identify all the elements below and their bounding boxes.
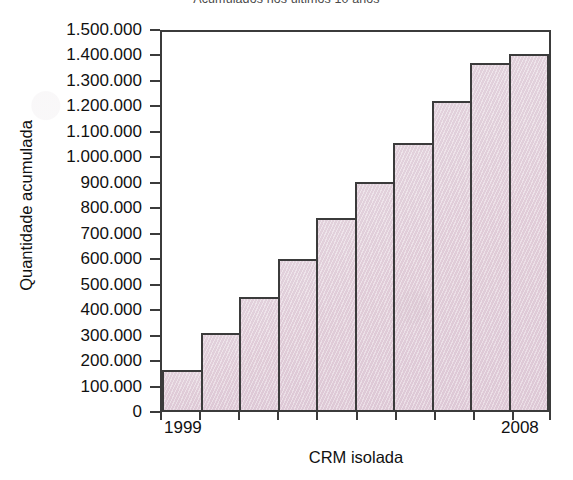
x-axis-tick-first	[160, 412, 162, 420]
bar-2003	[316, 218, 357, 410]
x-axis-tick	[512, 412, 514, 420]
y-axis-tick	[150, 54, 160, 56]
bar-series	[162, 32, 549, 410]
bar-2002	[278, 259, 319, 410]
y-axis-tick	[150, 156, 160, 158]
y-axis-tick	[150, 309, 160, 311]
x-axis-tick-last	[549, 412, 551, 420]
y-axis-tick-label: 1.300.000	[26, 72, 142, 89]
bar-2008	[509, 54, 550, 410]
bar-2006	[432, 101, 473, 410]
y-axis-tick-label: 1.000.000	[26, 148, 142, 165]
y-axis-title: Quantidade acumulada	[17, 86, 36, 326]
y-axis-tick-label: 500.000	[26, 276, 142, 293]
y-axis-tick	[150, 360, 160, 362]
y-axis-tick	[150, 258, 160, 260]
x-axis-tick	[238, 412, 240, 420]
y-axis-tick-label: 100.000	[26, 378, 142, 395]
y-axis-tick-label: 900.000	[26, 174, 142, 191]
y-axis-tick-label: 0	[26, 403, 142, 420]
y-axis-tick	[150, 411, 160, 413]
x-axis-tick	[434, 412, 436, 420]
y-axis-tick	[150, 335, 160, 337]
y-axis-tick-label: 1.100.000	[26, 123, 142, 140]
y-axis-tick-label: 600.000	[26, 250, 142, 267]
x-axis-tick	[395, 412, 397, 420]
bar-2004	[355, 182, 396, 410]
x-axis-tick-label-1999: 1999	[164, 418, 202, 438]
chart-title: Acumulados nos últimos 10 anos	[0, 0, 573, 4]
y-axis-tick-label: 1.200.000	[26, 97, 142, 114]
x-axis-tick	[199, 412, 201, 420]
y-axis-tick	[150, 386, 160, 388]
plot-area	[160, 30, 551, 412]
y-axis-tick	[150, 80, 160, 82]
bar-2007	[470, 63, 511, 410]
y-axis-tick-label: 300.000	[26, 327, 142, 344]
bar-2005	[393, 143, 434, 410]
x-axis-tick	[356, 412, 358, 420]
y-axis-tick-label: 200.000	[26, 352, 142, 369]
x-axis-title: CRM isolada	[160, 448, 552, 467]
y-axis-tick	[150, 105, 160, 107]
bar-1999	[162, 370, 203, 410]
x-axis-tick	[316, 412, 318, 420]
y-axis-tick	[150, 233, 160, 235]
y-axis-tick-label: 700.000	[26, 225, 142, 242]
y-axis-tick	[150, 207, 160, 209]
y-axis-tick-label: 800.000	[26, 199, 142, 216]
y-axis-tick	[150, 131, 160, 133]
bar-2001	[239, 297, 280, 410]
y-axis-tick	[150, 284, 160, 286]
bar-chart-figure: Acumulados nos últimos 10 anos Quantidad…	[0, 0, 573, 480]
y-axis-tick-label: 400.000	[26, 301, 142, 318]
y-axis-tick	[150, 182, 160, 184]
x-axis-tick	[277, 412, 279, 420]
y-axis-tick-label: 1.500.000	[26, 21, 142, 38]
bar-2000	[201, 333, 242, 410]
x-axis-tick-label-2008: 2008	[501, 418, 539, 438]
y-axis-tick	[150, 29, 160, 31]
y-axis-tick-label: 1.400.000	[26, 46, 142, 63]
x-axis-tick	[473, 412, 475, 420]
